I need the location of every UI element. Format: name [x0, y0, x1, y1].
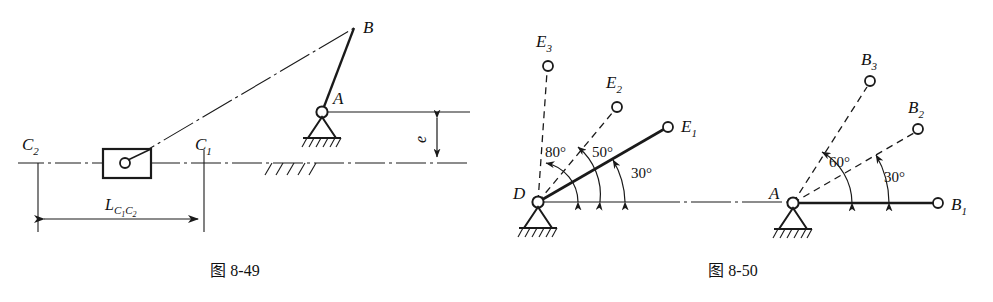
stroke-dim-L: L — [104, 196, 114, 213]
label-c2-main: C — [22, 135, 34, 154]
label-e3-sub: 3 — [545, 42, 552, 54]
label-b2-main: B — [908, 98, 919, 117]
angle-label-80-d: 80° — [545, 144, 566, 160]
pivot-a-support-triangle — [308, 117, 336, 138]
link-a-b2 — [793, 133, 914, 203]
label-e3-main: E — [535, 32, 547, 51]
angle-label-30-a: 30° — [884, 169, 905, 185]
label-point-b1: B1 — [951, 195, 967, 217]
pivot-a-right-ground-hatch — [773, 229, 812, 238]
pivot-d-group: D E1 E2 E3 30° 50° 80° — [512, 32, 697, 237]
pivot-a-right-support-triangle — [779, 208, 807, 229]
label-b1-main: B — [951, 195, 962, 214]
coupler-chain-line — [125, 28, 354, 163]
joint-b2 — [913, 124, 923, 134]
label-point-e3: E3 — [535, 32, 552, 54]
label-b3-main: B — [861, 50, 872, 69]
pivot-d-support-triangle — [524, 207, 552, 228]
joint-e2 — [612, 102, 622, 112]
angle-label-50-d: 50° — [592, 144, 613, 160]
stroke-dim-label: LC1C2 — [104, 196, 137, 219]
label-b1-sub: 1 — [961, 205, 967, 217]
label-b2-sub: 2 — [918, 108, 924, 120]
label-c2-sub: 2 — [33, 145, 39, 157]
label-point-d: D — [512, 184, 526, 203]
label-e2-main: E — [605, 73, 617, 92]
label-e1-sub: 1 — [691, 127, 697, 139]
angle-label-30-d: 30° — [631, 165, 652, 181]
label-point-c1: C1 — [195, 135, 212, 157]
caption-figure-8-50: 图 8-50 — [708, 262, 757, 279]
label-e2-sub: 2 — [616, 83, 622, 95]
pivot-d-ground-hatch — [518, 228, 557, 237]
joint-e1 — [663, 122, 673, 132]
label-point-b2: B2 — [908, 98, 924, 120]
offset-label-e: e — [412, 136, 429, 143]
label-point-b3: B3 — [861, 50, 877, 72]
label-point-a-right: A — [768, 184, 780, 203]
guide-ground-hatching — [265, 163, 316, 175]
angle-arc-80-d — [546, 163, 578, 202]
figure-sheet: e LC1C2 B A C2 C1 图 8-49 — [0, 0, 993, 302]
label-c1-main: C — [195, 135, 207, 154]
figure-8-49: e LC1C2 B A C2 C1 图 8-49 — [18, 18, 470, 279]
link-a-b3 — [793, 87, 867, 203]
engineering-figure-canvas: e LC1C2 B A C2 C1 图 8-49 — [0, 0, 993, 302]
label-point-c2: C2 — [22, 135, 39, 157]
caption-figure-8-49: 图 8-49 — [210, 262, 259, 279]
pivot-a-ground-hatch — [302, 138, 341, 147]
slider-block — [103, 149, 151, 178]
label-point-e2: E2 — [605, 73, 622, 95]
label-e1-main: E — [680, 117, 692, 136]
pivot-a-group-right: A B1 B2 B3 30° 60° — [768, 50, 967, 238]
offset-dimension-e: e — [412, 118, 437, 157]
link-d-e3 — [538, 72, 547, 202]
stroke-dim-sub-c-2: 2 — [133, 210, 137, 219]
label-b3-sub: 3 — [870, 60, 877, 72]
angle-label-60-a: 60° — [829, 154, 850, 170]
joint-b1 — [933, 198, 943, 208]
figure-8-50: D E1 E2 E3 30° 50° 80° — [512, 32, 967, 279]
angle-arc-30-d — [613, 160, 625, 202]
joint-e3 — [543, 61, 553, 71]
label-point-b-left: B — [363, 18, 374, 37]
label-c1-sub: 1 — [206, 145, 212, 157]
joint-b3 — [865, 76, 875, 86]
label-point-a-left: A — [332, 89, 344, 108]
label-point-e1: E1 — [680, 117, 697, 139]
